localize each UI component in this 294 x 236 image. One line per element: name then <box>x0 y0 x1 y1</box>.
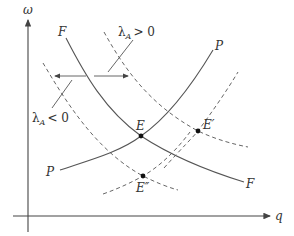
point-e-prime <box>196 129 201 134</box>
diagram-canvas: ω q F F P P λA> 0 λA< 0 <box>0 0 294 236</box>
point-e-double-prime <box>141 174 146 179</box>
shifted-curves <box>43 32 248 194</box>
dashed-p-prime-curve <box>164 72 238 168</box>
p-curve-label-bottom: P <box>45 165 55 179</box>
f-curve <box>66 38 244 182</box>
y-axis-label: ω <box>23 3 33 17</box>
p-curve-label-top: P <box>214 39 224 53</box>
point-e-prime-label: E′ <box>202 118 215 132</box>
shift-arrows <box>52 40 133 108</box>
x-axis-label: q <box>275 209 283 223</box>
dashed-f-double-prime-curve <box>43 63 178 190</box>
lambda-negative-label: λA< 0 <box>32 111 69 127</box>
point-e-double-prime-label: E″ <box>135 181 150 195</box>
f-curve-label-bottom: F <box>245 177 255 191</box>
lambda-positive-label: λA> 0 <box>118 25 155 41</box>
f-curve-label-top: F <box>57 25 67 39</box>
point-e-label: E <box>135 119 145 133</box>
lambda-neg-leader <box>52 80 72 108</box>
point-e <box>139 134 144 139</box>
main-curves: F F P P <box>45 25 255 191</box>
